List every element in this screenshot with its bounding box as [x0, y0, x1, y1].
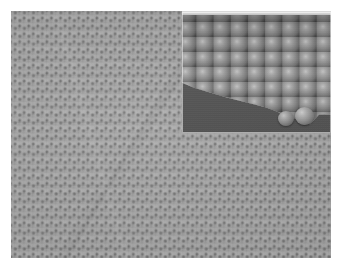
sem-figure: Large-area top view of a hexagonally clo… [0, 0, 342, 271]
stray-sphere-primary [295, 107, 314, 125]
inset-micrograph-panel: Tilted high-magnification view showing i… [182, 11, 331, 133]
inset-top-strip [182, 12, 331, 15]
stray-sphere-secondary [278, 111, 294, 126]
